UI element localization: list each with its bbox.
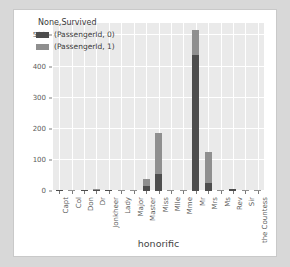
x-tick-label: Mr [199, 197, 207, 206]
bar-segment-survived [143, 179, 150, 186]
gridline [183, 23, 184, 191]
x-tick-label: Lady [124, 197, 132, 214]
legend-item[interactable]: (PassengerId, 0) [36, 30, 115, 39]
gridline [121, 23, 122, 191]
x-tick-mark [171, 191, 172, 194]
bar-segment-died [155, 174, 162, 191]
legend-item[interactable]: (PassengerId, 1) [36, 42, 115, 51]
x-tick-mark [72, 191, 73, 194]
x-tick-label: Mrs [211, 197, 219, 210]
x-tick-label: Col [75, 197, 83, 208]
x-tick-mark [159, 191, 160, 194]
gridline [245, 23, 246, 191]
y-tick-label: 0 [42, 187, 46, 195]
bar-segment-survived [205, 152, 212, 183]
y-tick-mark [49, 191, 52, 192]
gridline [221, 23, 222, 191]
x-tick-mark [59, 191, 60, 194]
x-tick-label: Jonkheer [112, 197, 120, 228]
x-tick-mark [134, 191, 135, 194]
x-tick-mark [109, 191, 110, 194]
y-tick-mark [49, 128, 52, 129]
bar-segment-survived [155, 133, 162, 173]
y-tick-mark [49, 159, 52, 160]
legend-swatch-died [36, 32, 49, 38]
bar[interactable] [155, 133, 162, 191]
gridline [146, 23, 147, 191]
bar-segment-died [205, 183, 212, 191]
x-tick-mark [146, 191, 147, 194]
y-tick-label: 300 [33, 94, 46, 102]
x-tick-mark [121, 191, 122, 194]
gridline [258, 23, 259, 191]
y-tick-mark [49, 97, 52, 98]
x-tick-mark [233, 191, 234, 194]
x-axis-title: honorific [53, 238, 264, 249]
x-tick-mark [221, 191, 222, 194]
bar[interactable] [143, 179, 150, 191]
x-tick-mark [84, 191, 85, 194]
gridline [171, 23, 172, 191]
x-tick-mark [96, 191, 97, 194]
bar-segment-survived [93, 189, 100, 190]
y-tick-label: 100 [33, 156, 46, 164]
x-tick-mark [245, 191, 246, 194]
bar-segment-died [192, 55, 199, 191]
bar[interactable] [192, 30, 199, 191]
x-tick-label: Ms [224, 197, 232, 207]
y-tick-label: 400 [33, 63, 46, 71]
x-tick-label: Rev [236, 197, 244, 210]
x-tick-label: Capt [62, 197, 70, 213]
gridline [134, 23, 135, 191]
x-tick-mark [258, 191, 259, 194]
x-tick-mark [183, 191, 184, 194]
bar[interactable] [205, 152, 212, 192]
y-tick-label: 200 [33, 125, 46, 133]
gridline [233, 23, 234, 191]
x-tick-label: Master [149, 197, 157, 221]
x-tick-mark [196, 191, 197, 194]
x-tick-label: Don [87, 197, 95, 211]
bar-segment-survived [192, 30, 199, 55]
x-tick-label: Dr [99, 197, 107, 205]
x-tick-mark [208, 191, 209, 194]
chart-figure: 0100200300400500 CaptColDonDrJonkheerLad… [13, 9, 277, 257]
legend-swatch-survived [36, 44, 49, 50]
legend-label: (PassengerId, 1) [54, 42, 115, 51]
x-tick-label: Mlle [174, 197, 182, 211]
x-tick-label: Sir [248, 197, 256, 206]
legend-label: (PassengerId, 0) [54, 30, 115, 39]
x-tick-label: Miss [162, 197, 170, 212]
x-tick-label: Major [137, 197, 145, 216]
x-tick-label: the Countess [261, 197, 269, 243]
chart-legend: None,Survived (PassengerId, 0) (Passenge… [32, 16, 119, 56]
y-tick-mark [49, 66, 52, 67]
legend-title: None,Survived [38, 18, 115, 27]
x-tick-label: Mme [186, 197, 194, 214]
